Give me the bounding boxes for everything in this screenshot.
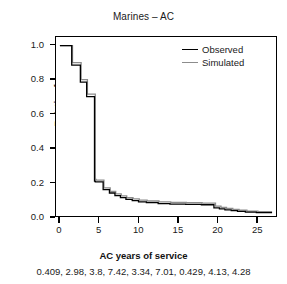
x-axis-tick-label: 5 (84, 224, 114, 235)
figure-caption: 0.409, 2.98, 3.8, 7.42, 3.34, 7.01, 0.42… (0, 266, 287, 277)
x-axis-tick-label: 0 (44, 224, 74, 235)
series-line-simulated (60, 46, 272, 212)
legend-swatch-simulated (182, 62, 198, 63)
x-axis-tick-label: 20 (203, 224, 233, 235)
y-axis-tick-label: 0.0 (0, 211, 53, 223)
x-axis-tick-mark (177, 217, 178, 223)
x-axis-tick-mark (256, 217, 257, 223)
legend-swatch-observed (182, 49, 198, 50)
legend-label: Simulated (202, 57, 244, 68)
y-axis-tick-label: 0.8 (0, 73, 53, 85)
x-axis-tick-mark (217, 217, 218, 223)
chart-figure: Marines – AC Relative frequency 0.00.20.… (0, 0, 287, 284)
x-axis-tick-label: 25 (242, 224, 272, 235)
y-axis-tick-label: 0.2 (0, 177, 53, 189)
x-axis-tick-mark (58, 217, 59, 223)
chart-legend: ObservedSimulated (182, 43, 244, 69)
y-axis-tick-label: 1.0 (0, 39, 53, 51)
x-axis-label: AC years of service (0, 250, 287, 261)
legend-item-simulated: Simulated (182, 56, 244, 69)
y-axis-tick-label: 0.4 (0, 142, 53, 154)
x-axis-tick-mark (138, 217, 139, 223)
series-line-observed (60, 46, 272, 213)
legend-label: Observed (202, 44, 243, 55)
x-axis-tick-label: 15 (163, 224, 193, 235)
legend-item-observed: Observed (182, 43, 244, 56)
x-axis-tick-mark (98, 217, 99, 223)
x-axis-tick-label: 10 (123, 224, 153, 235)
y-axis-tick-label: 0.6 (0, 108, 53, 120)
chart-title: Marines – AC (0, 11, 287, 22)
